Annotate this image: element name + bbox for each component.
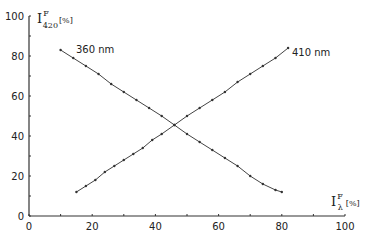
y-tick-label: 40 bbox=[11, 131, 24, 142]
chart: 020406080100020406080100 IF420[%] IFλ[%]… bbox=[0, 0, 378, 245]
x-tick-label: 0 bbox=[26, 221, 32, 232]
data-point bbox=[186, 115, 188, 117]
data-point bbox=[274, 57, 276, 59]
data-point bbox=[142, 147, 144, 149]
series-label-360nm: 360 nm bbox=[76, 44, 114, 55]
data-point bbox=[75, 191, 77, 193]
data-point bbox=[236, 165, 238, 167]
data-point bbox=[94, 179, 96, 181]
data-point bbox=[224, 157, 226, 159]
data-point bbox=[249, 175, 251, 177]
data-point bbox=[186, 133, 188, 135]
y-tick-label: 100 bbox=[5, 11, 24, 22]
data-point bbox=[211, 99, 213, 101]
y-tick-label: 60 bbox=[11, 91, 24, 102]
data-point bbox=[123, 159, 125, 161]
data-point bbox=[211, 149, 213, 151]
data-point bbox=[198, 141, 200, 143]
data-point bbox=[123, 91, 125, 93]
x-axis-title: IFλ[%] bbox=[331, 192, 360, 212]
data-point bbox=[151, 139, 153, 141]
data-point bbox=[161, 133, 163, 135]
data-point bbox=[59, 49, 61, 51]
data-point bbox=[85, 65, 87, 67]
data-point bbox=[104, 171, 106, 173]
data-point bbox=[161, 115, 163, 117]
data-point bbox=[262, 183, 264, 185]
data-point bbox=[262, 65, 264, 67]
y-tick-label: 80 bbox=[11, 51, 24, 62]
data-point bbox=[72, 57, 74, 59]
x-tick-label: 60 bbox=[212, 221, 225, 232]
data-point bbox=[236, 81, 238, 83]
data-point bbox=[198, 107, 200, 109]
y-tick-label: 20 bbox=[11, 171, 24, 182]
series-line-360-nm bbox=[61, 50, 282, 192]
data-point bbox=[85, 185, 87, 187]
data-point bbox=[148, 107, 150, 109]
series-line-410-nm bbox=[76, 48, 288, 192]
data-point bbox=[135, 99, 137, 101]
x-tick-label: 40 bbox=[149, 221, 162, 232]
data-point bbox=[224, 91, 226, 93]
data-point bbox=[113, 165, 115, 167]
data-point bbox=[281, 191, 283, 193]
data-point bbox=[132, 153, 134, 155]
data-point bbox=[287, 47, 289, 49]
data-point bbox=[249, 73, 251, 75]
y-tick-label: 0 bbox=[18, 211, 24, 222]
x-tick-label: 100 bbox=[335, 221, 354, 232]
series-label-410nm: 410 nm bbox=[292, 47, 330, 58]
data-point bbox=[97, 73, 99, 75]
y-axis-title: IF420[%] bbox=[37, 9, 73, 30]
data-point bbox=[173, 124, 175, 126]
data-point bbox=[110, 83, 112, 85]
x-tick-label: 80 bbox=[275, 221, 288, 232]
data-point bbox=[274, 189, 276, 191]
series-lines bbox=[59, 47, 289, 193]
x-tick-label: 20 bbox=[86, 221, 99, 232]
